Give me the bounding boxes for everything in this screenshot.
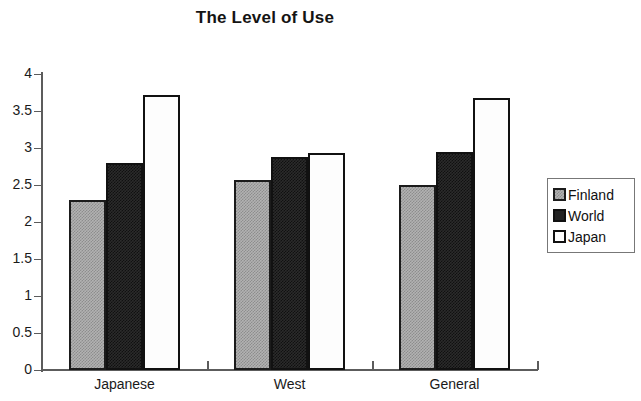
chart-title: The Level of Use [0,8,530,28]
bar-japan-west [308,153,345,370]
plot-area [42,74,537,370]
y-axis-tick-label: 3.5 [2,102,32,118]
bar-finland-japanese [69,200,106,370]
y-axis-tick-label: 1 [2,287,32,303]
bar-japan-general [473,98,510,370]
x-axis-category-label: West [207,376,372,392]
legend-label-finland: Finland [568,188,614,202]
legend-swatch-finland [553,188,566,201]
legend-label-japan: Japan [568,230,606,244]
chart-legend: Finland World Japan [547,178,635,253]
x-axis-category-label: General [372,376,537,392]
bar-chart: The Level of Use 00.511.522.533.54 Japan… [0,0,641,401]
legend-label-world: World [568,209,604,223]
legend-item-finland: Finland [553,184,630,205]
y-axis-tick-label: 1.5 [2,250,32,266]
x-axis-tick [537,361,539,370]
y-axis-tick-label: 2 [2,213,32,229]
legend-item-world: World [553,205,630,226]
bar-world-general [436,152,473,370]
y-axis-tick-label: 0.5 [2,324,32,340]
y-axis-tick [34,370,43,371]
legend-item-japan: Japan [553,226,630,247]
y-axis-tick-label: 2.5 [2,176,32,192]
bar-world-japanese [106,163,143,370]
y-axis-tick-label: 3 [2,139,32,155]
y-axis-tick-label: 4 [2,65,32,81]
bar-japan-japanese [143,95,180,370]
bar-world-west [271,157,308,370]
x-axis-category-label: Japanese [42,376,207,392]
y-axis-tick-label: 0 [2,361,32,377]
bar-finland-general [399,185,436,370]
legend-swatch-world [553,209,566,222]
legend-swatch-japan [553,230,566,243]
bar-finland-west [234,180,271,370]
